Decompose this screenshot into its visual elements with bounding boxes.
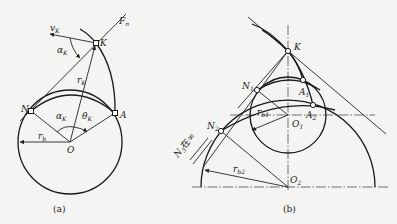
involute-diagram: Fn vK αK K rK N αK θK A rb O (a) [0, 0, 397, 224]
angle-alpha [57, 127, 74, 132]
angle-theta [74, 127, 87, 132]
point-n [29, 109, 34, 114]
label-a: A [119, 110, 127, 120]
label-rb1: rb1 [257, 107, 269, 118]
point-a [113, 111, 118, 116]
label-vk: vK [50, 23, 60, 34]
label-o1: O1 [292, 119, 303, 130]
arc-k-n2 [221, 106, 335, 131]
label-k: K [293, 42, 302, 52]
label-n2: N2 [206, 121, 219, 132]
n3-line-2 [193, 140, 212, 164]
label-n: N [20, 104, 30, 114]
label-k: K [99, 38, 108, 48]
point-k [94, 41, 99, 46]
point-k [285, 48, 290, 53]
radius-o2-n2 [221, 131, 288, 187]
point-a2 [310, 102, 315, 107]
label-a2: A2 [305, 110, 317, 121]
point-n2 [218, 128, 223, 133]
line-k-n1 [238, 51, 288, 108]
line-of-action [20, 14, 126, 121]
involute-1 [262, 30, 303, 80]
caption-b: (b) [283, 204, 296, 214]
label-rk: rK [77, 75, 86, 86]
point-a1 [300, 77, 305, 82]
angle-alpha-top [70, 38, 80, 58]
label-fn: Fn [118, 16, 129, 27]
label-rb: rb [38, 131, 46, 142]
caption-a: (a) [53, 204, 65, 214]
label-n1: N1 [241, 81, 254, 92]
radius-rb1 [252, 115, 288, 130]
figure-a: Fn vK αK K rK N αK θK A rb O (a) [18, 14, 129, 214]
label-theta: θK [82, 111, 92, 122]
label-rb2: rb2 [233, 164, 245, 175]
label-alpha: αK [56, 111, 67, 122]
figure-b: K N1 A1 rb1 O1 A2 N2 N3在∞ rb2 O2 (b) [170, 17, 390, 214]
point-n1 [254, 87, 259, 92]
label-alpha-top: αK [57, 45, 68, 56]
radius-rb2 [205, 170, 288, 187]
arc-k-n1 [257, 80, 320, 90]
label-o2: O2 [290, 175, 301, 186]
label-o: O [67, 145, 75, 155]
